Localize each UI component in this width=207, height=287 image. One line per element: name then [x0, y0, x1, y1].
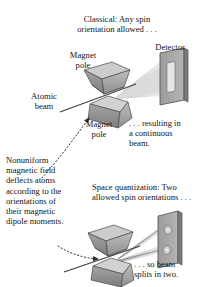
magnet-pole-lower-bottom — [91, 258, 134, 287]
space-quantization-label: Space quantization: Two allowed spin ori… — [92, 182, 207, 202]
magnet-pole-top-label: Magnet pole — [56, 50, 110, 70]
classical-note-label: Classical: Any spin orientation allowed … — [59, 14, 175, 34]
stern-gerlach-figure: Classical: Any spin orientation allowed … — [0, 0, 207, 287]
detector-top-label: Detector — [140, 42, 200, 52]
beam-splits-result-label: . . . so beam splits in two. — [134, 259, 206, 279]
detector-screen-top — [160, 48, 188, 105]
continuous-beam-result-label: . . . resulting in a continuous beam. — [129, 118, 205, 149]
beam-spot-upper — [164, 225, 172, 234]
atomic-beam-label: Atomic beam — [18, 91, 70, 111]
pointer-arrow-bottom — [58, 246, 98, 259]
magnet-pole-bottom-label: Magnet pole — [75, 119, 123, 139]
magnet-pole-upper-bottom — [88, 225, 133, 256]
nonuniform-field-paragraph: Nonuniform magnetic field deflects atoms… — [6, 155, 88, 226]
beam-spot-lower — [163, 245, 171, 254]
